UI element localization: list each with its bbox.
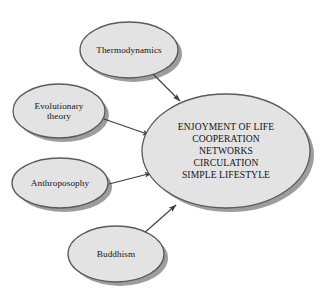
arrow-thermodynamics-to-outcome xyxy=(152,73,180,101)
node-evolutionary-theory[interactable] xyxy=(13,84,105,138)
node-outcome[interactable] xyxy=(142,94,310,208)
node-buddhism[interactable] xyxy=(68,226,164,282)
node-thermodynamics[interactable] xyxy=(80,22,178,78)
diagram-svg xyxy=(0,0,322,298)
diagram-canvas: ENJOYMENT OF LIFE COOPERATION NETWORKS C… xyxy=(0,0,322,298)
node-anthroposophy[interactable] xyxy=(12,158,108,208)
node-bodies xyxy=(12,22,310,282)
arrow-buddhism-to-outcome xyxy=(143,205,176,234)
arrow-evolutionary-theory-to-outcome xyxy=(104,119,150,135)
arrow-anthroposophy-to-outcome xyxy=(109,173,152,184)
